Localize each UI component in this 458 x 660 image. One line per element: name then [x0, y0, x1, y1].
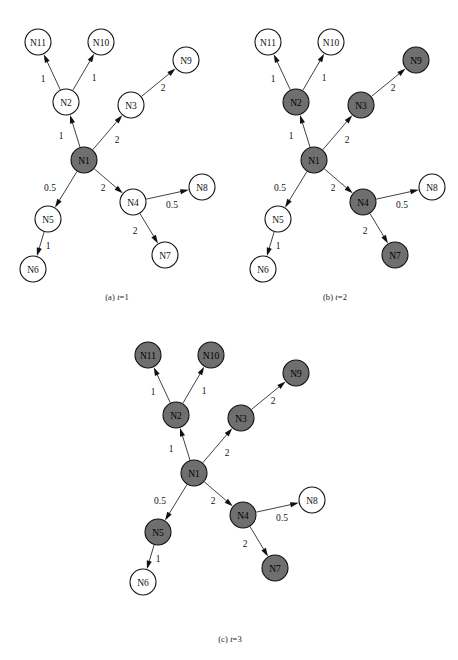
graph-node-n8[interactable]: N8 [419, 174, 445, 200]
graph-node-n1[interactable]: N1 [71, 147, 97, 173]
graph-node-n2[interactable]: N2 [53, 89, 79, 115]
graph-node-n5[interactable]: N5 [145, 519, 171, 545]
graph-node-n6[interactable]: N6 [20, 256, 46, 282]
edge-weight-label: 1 [46, 241, 51, 251]
graph-edge: 1 [183, 367, 207, 404]
node-label: N2 [60, 98, 72, 108]
graph-node-n7[interactable]: N7 [382, 242, 408, 268]
edge-line [183, 372, 201, 403]
arrowhead-icon [151, 235, 158, 244]
edge-weight-label: 2 [271, 396, 276, 406]
edge-weight-label: 1 [202, 386, 207, 396]
edge-line [146, 191, 182, 199]
node-label: N2 [170, 411, 182, 421]
graph-edge: 0.5 [376, 189, 419, 210]
graph-node-n9[interactable]: N9 [403, 47, 429, 73]
graph-canvas-b: 1220.511220.51N1N2N3N4N5N6N7N8N9N10N11 [230, 0, 458, 290]
graph-canvas-c: 1220.511220.51N1N2N3N4N5N6N7N8N9N10N11 [110, 313, 340, 603]
node-label: N11 [140, 351, 156, 361]
graph-edge: 1 [169, 428, 190, 460]
graph-node-n2[interactable]: N2 [283, 89, 309, 115]
graph-node-n7[interactable]: N7 [262, 555, 288, 581]
node-label: N1 [78, 156, 90, 166]
graph-edge: 2 [204, 482, 233, 506]
graph-node-n9[interactable]: N9 [173, 47, 199, 73]
node-label: N5 [42, 215, 54, 225]
graph-node-n3[interactable]: N3 [228, 405, 254, 431]
edge-weight-label: 2 [115, 135, 120, 145]
graph-edge: 2 [93, 115, 122, 149]
node-label: N11 [260, 38, 276, 48]
edge-weight-label: 1 [276, 241, 281, 251]
graph-node-n5[interactable]: N5 [35, 206, 61, 232]
graph-edge: 2 [243, 527, 268, 557]
edge-weight-label: 2 [331, 183, 336, 193]
edge-weight-label: 0.5 [396, 200, 408, 210]
edge-weight-label: 1 [151, 387, 156, 397]
edge-weight-label: 0.5 [154, 496, 166, 506]
arrowhead-icon [70, 115, 75, 124]
graph-edge: 1 [271, 54, 291, 90]
graph-node-n2[interactable]: N2 [163, 402, 189, 428]
edge-weight-label: 1 [59, 131, 64, 141]
graph-edge: 2 [371, 69, 405, 97]
edge-line [376, 191, 412, 199]
edge-weight-label: 2 [345, 135, 350, 145]
graph-edge: 2 [141, 69, 175, 97]
graph-panel-c: 1220.511220.51N1N2N3N4N5N6N7N8N9N10N11 [110, 313, 340, 603]
graph-node-n1[interactable]: N1 [181, 460, 207, 486]
node-label: N5 [272, 215, 284, 225]
node-label: N8 [196, 183, 208, 193]
edge-weight-label: 1 [169, 444, 174, 454]
node-label: N10 [93, 38, 110, 48]
arrowhead-icon [180, 428, 185, 437]
graph-edge: 0.5 [274, 172, 307, 208]
edge-line [302, 121, 310, 147]
node-label: N3 [355, 101, 367, 111]
edge-line [149, 545, 154, 563]
graph-node-n3[interactable]: N3 [348, 92, 374, 118]
graph-edge: 0.5 [256, 502, 299, 523]
graph-node-n3[interactable]: N3 [118, 92, 144, 118]
arrowhead-icon [180, 189, 189, 194]
edge-weight-label: 2 [225, 448, 230, 458]
graph-node-n6[interactable]: N6 [130, 569, 156, 595]
edge-line [156, 373, 170, 403]
graph-edge: 2 [324, 169, 353, 193]
graph-node-n4[interactable]: N4 [350, 189, 376, 215]
graph-node-n8[interactable]: N8 [299, 487, 325, 513]
edge-line [371, 73, 400, 97]
graph-edge: 1 [73, 54, 97, 91]
graph-node-n10[interactable]: N10 [198, 342, 224, 368]
graph-node-n6[interactable]: N6 [250, 256, 276, 282]
graph-node-n9[interactable]: N9 [283, 360, 309, 386]
edge-line [324, 169, 348, 189]
edge-line [168, 485, 187, 515]
edge-line [46, 60, 60, 90]
graph-node-n5[interactable]: N5 [265, 206, 291, 232]
edge-weight-label: 2 [211, 496, 216, 506]
graph-node-n1[interactable]: N1 [301, 147, 327, 173]
graph-node-n4[interactable]: N4 [120, 189, 146, 215]
graph-node-n10[interactable]: N10 [318, 29, 344, 55]
edge-line [182, 434, 190, 460]
caption-suffix: =2 [338, 292, 347, 302]
edge-weight-label: 1 [271, 74, 276, 84]
graph-node-n4[interactable]: N4 [230, 502, 256, 528]
arrowhead-icon [55, 199, 62, 208]
node-label: N1 [308, 156, 320, 166]
graph-node-n8[interactable]: N8 [189, 174, 215, 200]
arrowhead-icon [274, 54, 280, 63]
graph-node-n11[interactable]: N11 [25, 29, 51, 55]
graph-node-n10[interactable]: N10 [88, 29, 114, 55]
graph-node-n7[interactable]: N7 [152, 242, 178, 268]
graph-edge: 1 [303, 54, 327, 91]
edge-weight-label: 2 [101, 183, 106, 193]
graph-edge: 1 [41, 54, 61, 90]
panel-caption-c: (c) t=3 [180, 634, 280, 644]
graph-node-n11[interactable]: N11 [135, 342, 161, 368]
panel-caption-a: (a) t=1 [72, 292, 162, 302]
edge-weight-label: 2 [243, 539, 248, 549]
graph-node-n11[interactable]: N11 [255, 29, 281, 55]
edge-line [72, 121, 80, 147]
